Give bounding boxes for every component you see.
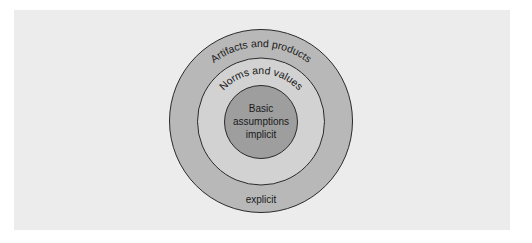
inner-label-line-3: implicit: [246, 129, 277, 140]
culture-layers-diagram: Artifacts and products Norms and values …: [0, 0, 532, 243]
outer-ring-bottom-label: explicit: [246, 194, 277, 205]
inner-label-line-1: Basic: [249, 103, 273, 114]
inner-label-line-2: assumptions: [233, 116, 289, 127]
